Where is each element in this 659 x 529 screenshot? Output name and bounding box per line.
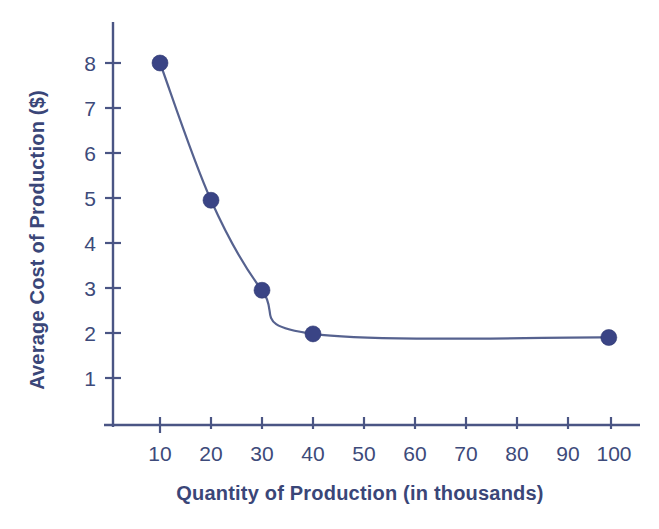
x-tick-label-30: 30 [250,442,273,465]
x-tick-label-100: 100 [596,442,631,465]
y-tick-label-1: 1 [84,367,96,390]
data-point-30 [254,282,270,298]
y-axis-title: Average Cost of Production ($) [26,90,48,390]
chart-canvas: 8 7 6 5 4 3 2 1 10 20 30 40 [0,0,659,529]
x-tick-label-60: 60 [403,442,426,465]
x-tick-label-70: 70 [454,442,477,465]
x-tick-label-40: 40 [301,442,324,465]
x-tick-label-10: 10 [148,442,171,465]
x-tick-label-50: 50 [352,442,375,465]
y-tick-label-7: 7 [84,97,96,120]
y-tick-label-8: 8 [84,52,96,75]
data-point-10 [152,55,168,71]
data-point-98 [601,330,617,346]
y-tick-label-6: 6 [84,142,96,165]
y-tick-label-3: 3 [84,277,96,300]
data-point-40 [305,326,321,342]
y-tick-label-2: 2 [84,322,96,345]
data-point-20 [203,192,219,208]
cost-curve-chart: 8 7 6 5 4 3 2 1 10 20 30 40 [0,0,659,529]
y-tick-label-4: 4 [84,232,96,255]
y-tick-label-5: 5 [84,187,96,210]
x-tick-label-80: 80 [505,442,528,465]
x-axis-title: Quantity of Production (in thousands) [176,482,543,504]
x-tick-label-90: 90 [556,442,579,465]
x-tick-label-20: 20 [199,442,222,465]
